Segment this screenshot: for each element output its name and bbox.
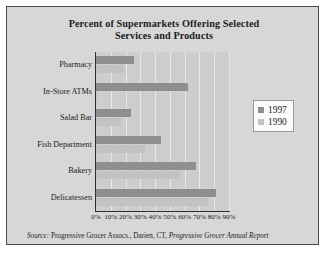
source-body: Progressive Grocer Assocs., Darien, CT, — [49, 232, 169, 240]
bar-1997-fish-department — [96, 136, 161, 144]
x-axis-line — [95, 211, 230, 212]
x-tick-30%: 30% — [134, 213, 147, 221]
bar-1990-salad-bar — [96, 118, 121, 126]
source-note: Source: Progressive Grocer Assocs., Dari… — [27, 232, 269, 240]
legend-swatch-1990 — [258, 119, 264, 125]
gridline-30% — [140, 52, 141, 211]
category-label-bakery: Bakery — [68, 166, 92, 175]
x-tick-80%: 80% — [208, 213, 221, 221]
gridline-70% — [199, 52, 200, 211]
bar-1997-bakery — [96, 162, 196, 170]
legend-item-1990[interactable]: 1990 — [258, 116, 287, 128]
category-label-fish-department: Fish Department — [37, 140, 92, 149]
category-label-delicatessen: Delicatessen — [51, 193, 92, 202]
gridline-90% — [229, 52, 230, 211]
legend[interactable]: 1997 1990 — [253, 100, 294, 132]
gridline-60% — [185, 52, 186, 211]
chart-title-line-2: Services and Products — [35, 30, 293, 42]
chart-screenshot: Percent of Supermarkets Offering Selecte… — [0, 0, 326, 253]
legend-item-1997[interactable]: 1997 — [258, 104, 287, 116]
bar-1997-pharmacy — [96, 56, 134, 64]
chart-frame: Percent of Supermarkets Offering Selecte… — [6, 6, 319, 245]
bar-1990-in-store-atms — [96, 92, 97, 100]
chart-title: Percent of Supermarkets Offering Selecte… — [35, 18, 293, 43]
bar-1990-pharmacy — [96, 65, 124, 73]
legend-swatch-1997 — [258, 107, 264, 113]
gridline-40% — [155, 52, 156, 211]
x-tick-50%: 50% — [163, 213, 176, 221]
bar-1990-bakery — [96, 171, 180, 179]
source-prefix: Source: — [27, 232, 49, 240]
category-label-pharmacy: Pharmacy — [59, 60, 92, 69]
x-tick-20%: 20% — [119, 213, 132, 221]
x-tick-0%: 0% — [91, 213, 100, 221]
x-tick-60%: 60% — [178, 213, 191, 221]
gridline-80% — [214, 52, 215, 211]
x-tick-40%: 40% — [149, 213, 162, 221]
x-gridlines — [96, 52, 229, 211]
bar-1997-salad-bar — [96, 109, 131, 117]
bar-1990-fish-department — [96, 145, 145, 153]
bar-1997-in-store-atms — [96, 83, 188, 91]
category-label-salad-bar: Salad Bar — [60, 113, 92, 122]
x-tick-90%: 90% — [222, 213, 235, 221]
gridline-50% — [170, 52, 171, 211]
x-tick-10%: 10% — [104, 213, 117, 221]
source-publication: Progressive Grocer Annual Report — [169, 232, 269, 240]
category-labels: PharmacyIn-Store ATMsSalad BarFish Depar… — [7, 52, 92, 211]
gridline-10% — [111, 52, 112, 211]
legend-label-1997: 1997 — [268, 105, 287, 115]
category-label-in-store-atms: In-Store ATMs — [43, 87, 92, 96]
chart-title-line-1: Percent of Supermarkets Offering Selecte… — [35, 18, 293, 30]
bar-1997-delicatessen — [96, 189, 216, 197]
legend-label-1990: 1990 — [268, 117, 287, 127]
x-tick-70%: 70% — [193, 213, 206, 221]
gridline-20% — [126, 52, 127, 211]
bar-1990-delicatessen — [96, 198, 208, 206]
